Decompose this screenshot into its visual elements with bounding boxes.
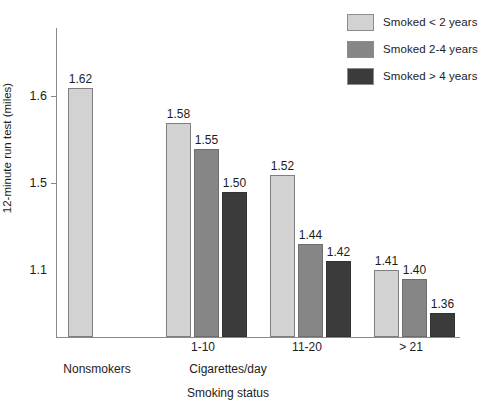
bar-11-20-series-1: 1.44 (298, 244, 323, 337)
y-tick-label-2: 1.5 (30, 176, 47, 190)
x-category-label-nonsmokers: Nonsmokers (63, 362, 130, 376)
x-category-label-gt-21: > 21 (399, 340, 423, 354)
y-axis-line (56, 28, 57, 338)
bar-value-label: 1.44 (299, 228, 322, 242)
bar-value-label: 1.42 (327, 245, 350, 259)
x-axis-line (56, 337, 460, 338)
bar-1-10-series-1: 1.55 (194, 149, 219, 337)
y-tick-label-1: 1.6 (30, 89, 47, 103)
bar-value-label: 1.36 (431, 297, 454, 311)
bar-value-label: 1.62 (69, 72, 92, 86)
bar-1-10-series-2: 1.50 (222, 192, 247, 337)
bar-value-label: 1.41 (375, 254, 398, 268)
bar-1-10-series-0: 1.58 (166, 123, 191, 337)
y-axis-title: 12-minute run test (miles) (1, 83, 13, 213)
bar-value-label: 1.52 (271, 159, 294, 173)
bar-value-label: 1.55 (195, 133, 218, 147)
bar-gt-21-series-0: 1.41 (374, 270, 399, 337)
x-axis-group-label: Cigarettes/day (189, 362, 266, 376)
bar-value-label: 1.40 (403, 263, 426, 277)
bar-value-label: 1.58 (167, 107, 190, 121)
bar-gt-21-series-1: 1.40 (402, 279, 427, 337)
bar-nonsmokers-series-0: 1.62 (68, 88, 93, 337)
bar-value-label: 1.50 (223, 176, 246, 190)
bar-11-20-series-0: 1.52 (270, 175, 295, 337)
x-axis-title: Smoking status (187, 386, 269, 400)
y-tick-mark-2 (51, 183, 56, 184)
y-tick-label-3: 1.1 (30, 263, 47, 277)
bar-gt-21-series-2: 1.36 (430, 313, 455, 337)
x-category-label-1-10: 1-10 (191, 340, 215, 354)
bar-11-20-series-2: 1.42 (326, 261, 351, 337)
y-tick-mark-1 (51, 96, 56, 97)
x-category-label-11-20: 11-20 (292, 340, 322, 354)
legend-label-series-0: Smoked < 2 years (383, 16, 478, 28)
plot-area: 1.6 1.5 1.1 1.62 1.58 1.55 1.50 1.52 1.4… (56, 28, 460, 338)
